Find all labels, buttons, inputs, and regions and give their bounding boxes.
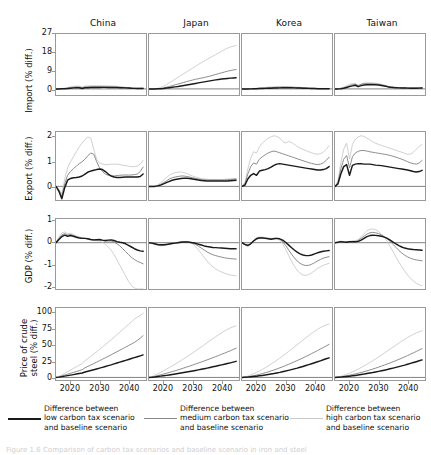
legend-swatch-high <box>290 418 323 419</box>
xtick-taiwan-2: 2040 <box>395 384 421 393</box>
panel-export-china <box>55 131 147 201</box>
column-title-korea: Korea <box>243 18 335 28</box>
xtick-mark-china-1 <box>100 381 101 384</box>
panel-gdp-japan <box>148 218 240 290</box>
xtick-japan-0: 2020 <box>150 384 176 393</box>
xtick-mark-china-0 <box>70 381 71 384</box>
panel-gdp-taiwan <box>334 218 426 290</box>
xtick-mark-japan-0 <box>163 381 164 384</box>
xtick-japan-1: 2030 <box>180 384 206 393</box>
ytick-price-0: 100 <box>26 307 52 316</box>
xtick-mark-japan-2 <box>222 381 223 384</box>
xtick-korea-1: 2030 <box>273 384 299 393</box>
panel-import-japan <box>148 33 240 96</box>
legend-high-line1: Difference between <box>326 404 431 413</box>
ytick-price-4: 0 <box>26 373 52 382</box>
xtick-mark-korea-0 <box>256 381 257 384</box>
panel-price-japan <box>148 307 240 381</box>
ytick-price-1: 75 <box>26 324 52 333</box>
xtick-mark-korea-2 <box>315 381 316 384</box>
legend-entry-medium: Difference between medium carbon tax sce… <box>180 404 295 432</box>
legend-swatch-medium <box>144 418 177 419</box>
legend-medium-line3: and baseline scenario <box>180 423 295 432</box>
xtick-china-2: 2040 <box>116 384 142 393</box>
ytick-price-3: 25 <box>26 357 52 366</box>
figure-root: China Japan Korea Taiwan Import (% diff.… <box>0 0 431 455</box>
panel-import-korea <box>241 33 333 96</box>
ytick-gdp-1: 0 <box>26 237 52 246</box>
panel-gdp-korea <box>241 218 333 290</box>
panel-export-japan <box>148 131 240 201</box>
legend-high-line2: high carbon tax scenario <box>326 413 431 422</box>
column-title-china: China <box>57 18 149 28</box>
ytick-gdp-3: -2 <box>26 282 52 291</box>
xtick-mark-korea-1 <box>286 381 287 384</box>
ytick-gdp-0: 1 <box>26 215 52 224</box>
xtick-china-1: 2030 <box>87 384 113 393</box>
xtick-mark-taiwan-2 <box>408 381 409 384</box>
xtick-taiwan-1: 2030 <box>366 384 392 393</box>
legend-low-line3: and baseline scenario <box>44 423 144 432</box>
legend-swatch-low <box>8 418 41 420</box>
panel-price-korea <box>241 307 333 381</box>
ytick-import-2: 9 <box>26 66 52 75</box>
column-title-japan: Japan <box>150 18 242 28</box>
ytick-import-3: 0 <box>26 85 52 94</box>
legend-entry-high: Difference between high carbon tax scena… <box>326 404 431 432</box>
legend-low-line2: low carbon tax scenario <box>44 413 144 422</box>
xtick-mark-china-2 <box>129 381 130 384</box>
legend-low-line1: Difference between <box>44 404 144 413</box>
xtick-mark-taiwan-1 <box>379 381 380 384</box>
xtick-taiwan-0: 2020 <box>336 384 362 393</box>
xtick-japan-2: 2040 <box>209 384 235 393</box>
ytick-export-2: 0 <box>26 182 52 191</box>
panel-import-taiwan <box>334 33 426 96</box>
legend-medium-line2: medium carbon tax scenario <box>180 413 295 422</box>
panel-import-china <box>55 33 147 96</box>
ytick-import-1: 18 <box>26 47 52 56</box>
figure-caption: Figure 1.6 Comparison of carbon tax scen… <box>6 446 426 454</box>
legend-high-line3: and baseline scenario <box>326 423 431 432</box>
xtick-korea-0: 2020 <box>243 384 269 393</box>
ytick-price-2: 50 <box>26 340 52 349</box>
ytick-export-0: 2 <box>26 131 52 140</box>
xtick-mark-taiwan-0 <box>349 381 350 384</box>
ytick-export-1: 1 <box>26 157 52 166</box>
xtick-korea-2: 2040 <box>302 384 328 393</box>
legend-entry-low: Difference between low carbon tax scenar… <box>44 404 144 432</box>
column-title-taiwan: Taiwan <box>336 18 428 28</box>
panel-gdp-china <box>55 218 147 290</box>
xtick-mark-japan-1 <box>193 381 194 384</box>
ytick-gdp-2: -1 <box>26 260 52 269</box>
legend-medium-line1: Difference between <box>180 404 295 413</box>
panel-export-korea <box>241 131 333 201</box>
panel-price-taiwan <box>334 307 426 381</box>
panel-price-china <box>55 307 147 381</box>
ytick-import-0: 27 <box>26 28 52 37</box>
xtick-china-0: 2020 <box>57 384 83 393</box>
panel-export-taiwan <box>334 131 426 201</box>
